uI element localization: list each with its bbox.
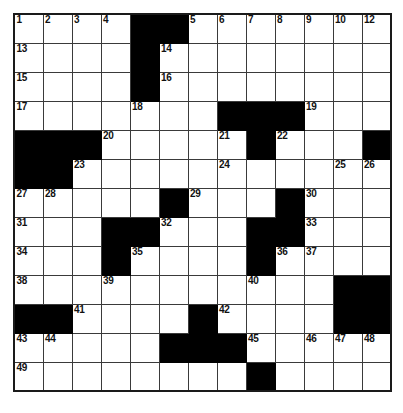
crossword-cell[interactable]: 14 xyxy=(159,43,188,72)
crossword-cell[interactable] xyxy=(101,72,130,101)
crossword-cell[interactable]: 33 xyxy=(304,217,333,246)
crossword-cell[interactable] xyxy=(101,101,130,130)
crossword-cell[interactable] xyxy=(188,72,217,101)
crossword-cell[interactable] xyxy=(304,275,333,304)
crossword-cell[interactable] xyxy=(188,130,217,159)
crossword-cell[interactable] xyxy=(304,43,333,72)
crossword-grid[interactable]: 1234567891012131415161718192021222324252… xyxy=(13,13,392,392)
crossword-cell[interactable]: 49 xyxy=(14,362,43,391)
crossword-cell[interactable] xyxy=(43,246,72,275)
crossword-cell[interactable]: 15 xyxy=(14,72,43,101)
crossword-cell[interactable] xyxy=(217,362,246,391)
crossword-cell[interactable] xyxy=(188,217,217,246)
crossword-cell[interactable] xyxy=(43,217,72,246)
crossword-cell[interactable] xyxy=(304,159,333,188)
crossword-cell[interactable]: 8 xyxy=(275,14,304,43)
crossword-cell[interactable]: 28 xyxy=(43,188,72,217)
crossword-cell[interactable] xyxy=(362,246,391,275)
crossword-cell[interactable] xyxy=(130,362,159,391)
crossword-cell[interactable] xyxy=(188,246,217,275)
crossword-cell[interactable] xyxy=(275,333,304,362)
crossword-cell[interactable] xyxy=(101,333,130,362)
crossword-cell[interactable] xyxy=(246,72,275,101)
crossword-cell[interactable] xyxy=(159,101,188,130)
crossword-cell[interactable] xyxy=(362,43,391,72)
crossword-cell[interactable] xyxy=(304,130,333,159)
crossword-cell[interactable] xyxy=(275,159,304,188)
crossword-cell[interactable]: 21 xyxy=(217,130,246,159)
crossword-cell[interactable]: 47 xyxy=(333,333,362,362)
crossword-cell[interactable]: 30 xyxy=(304,188,333,217)
crossword-cell[interactable]: 39 xyxy=(101,275,130,304)
crossword-cell[interactable]: 5 xyxy=(188,14,217,43)
crossword-cell[interactable]: 23 xyxy=(72,159,101,188)
crossword-cell[interactable] xyxy=(72,72,101,101)
crossword-cell[interactable]: 7 xyxy=(246,14,275,43)
crossword-cell[interactable] xyxy=(101,188,130,217)
crossword-cell[interactable] xyxy=(72,188,101,217)
crossword-cell[interactable] xyxy=(159,159,188,188)
crossword-cell[interactable]: 18 xyxy=(130,101,159,130)
crossword-cell[interactable]: 48 xyxy=(362,333,391,362)
crossword-cell[interactable]: 9 xyxy=(304,14,333,43)
crossword-cell[interactable]: 1 xyxy=(14,14,43,43)
crossword-cell[interactable]: 12 xyxy=(362,14,391,43)
crossword-cell[interactable] xyxy=(130,304,159,333)
crossword-cell[interactable]: 41 xyxy=(72,304,101,333)
crossword-cell[interactable] xyxy=(101,304,130,333)
crossword-cell[interactable]: 36 xyxy=(275,246,304,275)
crossword-cell[interactable]: 22 xyxy=(275,130,304,159)
crossword-cell[interactable] xyxy=(217,188,246,217)
crossword-cell[interactable] xyxy=(362,101,391,130)
crossword-cell[interactable] xyxy=(304,362,333,391)
crossword-cell[interactable] xyxy=(333,72,362,101)
crossword-cell[interactable] xyxy=(217,275,246,304)
crossword-cell[interactable] xyxy=(246,188,275,217)
crossword-cell[interactable] xyxy=(72,43,101,72)
crossword-cell[interactable]: 45 xyxy=(246,333,275,362)
crossword-cell[interactable] xyxy=(72,217,101,246)
crossword-cell[interactable] xyxy=(188,43,217,72)
crossword-cell[interactable]: 19 xyxy=(304,101,333,130)
crossword-cell[interactable] xyxy=(43,362,72,391)
crossword-cell[interactable] xyxy=(159,246,188,275)
crossword-cell[interactable]: 10 xyxy=(333,14,362,43)
crossword-cell[interactable]: 13 xyxy=(14,43,43,72)
crossword-cell[interactable] xyxy=(101,159,130,188)
crossword-cell[interactable] xyxy=(188,159,217,188)
crossword-cell[interactable] xyxy=(188,362,217,391)
crossword-cell[interactable] xyxy=(72,362,101,391)
crossword-cell[interactable] xyxy=(72,101,101,130)
crossword-cell[interactable]: 3 xyxy=(72,14,101,43)
crossword-cell[interactable] xyxy=(275,275,304,304)
crossword-cell[interactable] xyxy=(304,304,333,333)
crossword-cell[interactable] xyxy=(159,130,188,159)
crossword-cell[interactable] xyxy=(333,246,362,275)
crossword-cell[interactable] xyxy=(130,188,159,217)
crossword-cell[interactable] xyxy=(333,188,362,217)
crossword-cell[interactable]: 32 xyxy=(159,217,188,246)
crossword-cell[interactable] xyxy=(43,72,72,101)
crossword-cell[interactable]: 25 xyxy=(333,159,362,188)
crossword-cell[interactable] xyxy=(130,159,159,188)
crossword-cell[interactable] xyxy=(159,275,188,304)
crossword-cell[interactable]: 17 xyxy=(14,101,43,130)
crossword-cell[interactable] xyxy=(333,43,362,72)
crossword-cell[interactable] xyxy=(275,362,304,391)
crossword-cell[interactable] xyxy=(333,362,362,391)
crossword-cell[interactable]: 29 xyxy=(188,188,217,217)
crossword-cell[interactable] xyxy=(43,43,72,72)
crossword-cell[interactable]: 38 xyxy=(14,275,43,304)
crossword-cell[interactable] xyxy=(159,362,188,391)
crossword-cell[interactable] xyxy=(217,246,246,275)
crossword-cell[interactable]: 26 xyxy=(362,159,391,188)
crossword-cell[interactable] xyxy=(333,217,362,246)
crossword-cell[interactable] xyxy=(275,304,304,333)
crossword-cell[interactable] xyxy=(217,217,246,246)
crossword-cell[interactable] xyxy=(72,333,101,362)
crossword-cell[interactable]: 16 xyxy=(159,72,188,101)
crossword-cell[interactable]: 2 xyxy=(43,14,72,43)
crossword-cell[interactable]: 42 xyxy=(217,304,246,333)
crossword-cell[interactable]: 44 xyxy=(43,333,72,362)
crossword-cell[interactable] xyxy=(72,246,101,275)
